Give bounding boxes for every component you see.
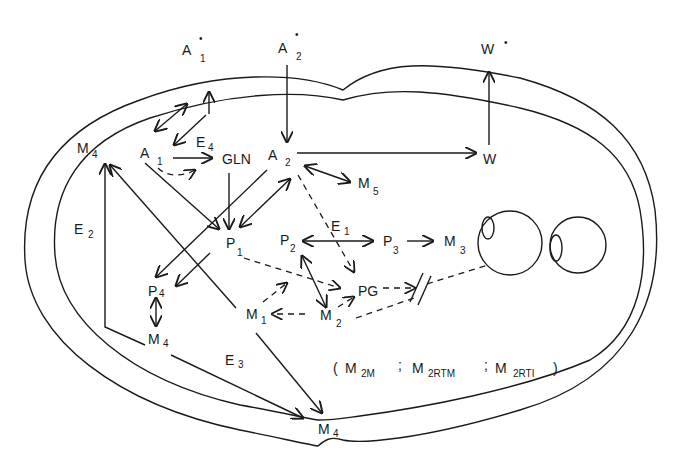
svg-text:E: E xyxy=(331,218,340,234)
svg-text:P: P xyxy=(148,283,157,299)
svg-text:1: 1 xyxy=(344,226,350,237)
svg-text:3: 3 xyxy=(460,245,466,256)
svg-text:A: A xyxy=(182,42,192,58)
svg-text:E: E xyxy=(74,221,83,237)
node-p4: P4 xyxy=(148,283,165,299)
svg-text:W: W xyxy=(483,151,497,167)
svg-text:(: ( xyxy=(333,360,338,376)
svg-text:W: W xyxy=(481,41,495,57)
solid-edges xyxy=(105,65,489,418)
svg-text:E: E xyxy=(225,352,234,368)
svg-text:M: M xyxy=(495,360,507,376)
svg-text:2M: 2M xyxy=(361,368,375,379)
svg-text:;: ; xyxy=(484,357,488,373)
node-m3: M3 xyxy=(444,233,466,256)
svg-text:2: 2 xyxy=(296,51,302,62)
node-w-star: W• xyxy=(481,37,508,57)
svg-text:2: 2 xyxy=(336,318,342,329)
svg-text:1: 1 xyxy=(261,315,267,326)
svg-text:M: M xyxy=(318,421,330,437)
svg-text:M: M xyxy=(358,175,370,191)
svg-text:•: • xyxy=(199,33,203,44)
node-a1: A1 xyxy=(140,145,163,167)
svg-text:P: P xyxy=(280,232,289,248)
svg-text:2: 2 xyxy=(290,243,296,254)
node-m4-mid: M4 xyxy=(148,331,169,349)
compartment-diagram: A1• A2• W• M4 A1 GLN A2 W M5 E1 E2 E3 E4… xyxy=(0,0,686,463)
svg-text:4: 4 xyxy=(92,149,98,160)
svg-text:M: M xyxy=(148,331,160,347)
svg-text:M: M xyxy=(320,307,332,323)
svg-text:1: 1 xyxy=(157,156,163,167)
body-outline xyxy=(25,66,657,446)
svg-text:M: M xyxy=(412,360,424,376)
node-a2: A2 xyxy=(268,147,291,168)
node-a1-star: A1• xyxy=(182,33,206,64)
svg-text:3: 3 xyxy=(238,359,244,370)
node-m5: M5 xyxy=(358,175,379,197)
diagram-canvas: A1• A2• W• M4 A1 GLN A2 W M5 E1 E2 E3 E4… xyxy=(0,0,686,463)
svg-text:2RTI: 2RTI xyxy=(513,368,535,379)
svg-text:2: 2 xyxy=(88,229,94,240)
svg-text:): ) xyxy=(553,360,558,376)
svg-text:;: ; xyxy=(398,357,402,373)
node-e2: E2 xyxy=(74,221,94,240)
svg-text:GLN: GLN xyxy=(222,151,251,167)
node-e3: E3 xyxy=(225,352,244,370)
svg-text:4: 4 xyxy=(333,428,339,439)
svg-text:M: M xyxy=(345,360,357,376)
node-e1: E1 xyxy=(331,218,350,237)
svg-text:E: E xyxy=(196,134,205,150)
node-m1: M1 xyxy=(246,306,267,326)
svg-text:1: 1 xyxy=(200,53,206,64)
node-gln: GLN xyxy=(222,151,251,167)
dashed-edges xyxy=(158,168,488,318)
svg-text:P: P xyxy=(226,235,235,251)
svg-text:3: 3 xyxy=(393,245,399,256)
node-a2-star: A2• xyxy=(278,29,302,62)
node-w: W xyxy=(483,151,497,167)
svg-text:A: A xyxy=(268,147,278,163)
svg-text:5: 5 xyxy=(373,186,379,197)
node-m2: M2 xyxy=(320,307,342,329)
svg-text:4: 4 xyxy=(163,338,169,349)
legend-note: ( M 2M ; M 2RTM ; M 2RTI ) xyxy=(333,357,558,379)
svg-text:2RTM: 2RTM xyxy=(428,368,455,379)
svg-text:4: 4 xyxy=(159,288,165,299)
svg-text:•: • xyxy=(504,37,508,48)
node-m4-top: M4 xyxy=(77,140,98,160)
svg-text:•: • xyxy=(295,29,299,40)
node-e4: E4 xyxy=(196,134,214,153)
svg-text:A: A xyxy=(140,145,150,161)
svg-text:M: M xyxy=(77,140,89,156)
svg-text:P: P xyxy=(383,233,392,249)
svg-text:A: A xyxy=(278,40,288,56)
svg-text:4: 4 xyxy=(208,142,214,153)
node-p2: P2 xyxy=(280,232,296,254)
node-m4-bottom: M4 xyxy=(318,421,339,439)
node-pg: PG xyxy=(358,283,378,299)
svg-text:M: M xyxy=(246,306,258,322)
node-p3: P3 xyxy=(383,233,399,256)
svg-text:PG: PG xyxy=(358,283,378,299)
node-p1: P1 xyxy=(226,235,243,258)
eye-structures xyxy=(478,211,606,275)
svg-text:2: 2 xyxy=(285,157,291,168)
svg-text:M: M xyxy=(444,233,456,249)
svg-text:1: 1 xyxy=(237,247,243,258)
